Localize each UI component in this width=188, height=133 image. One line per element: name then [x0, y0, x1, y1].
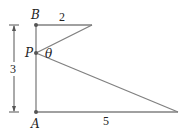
label-top-length: 2 [59, 10, 65, 24]
geometry-diagram: B P A θ 2 5 3 [0, 0, 188, 133]
segment-p-bottom [36, 53, 178, 112]
point-b [34, 23, 38, 27]
label-p: P [24, 46, 34, 60]
point-a [34, 110, 38, 114]
label-height: 3 [10, 62, 16, 76]
label-b: B [30, 8, 40, 22]
label-bottom-length: 5 [103, 114, 109, 128]
label-theta: θ [45, 47, 53, 61]
point-p [34, 51, 38, 55]
label-a: A [30, 117, 40, 131]
